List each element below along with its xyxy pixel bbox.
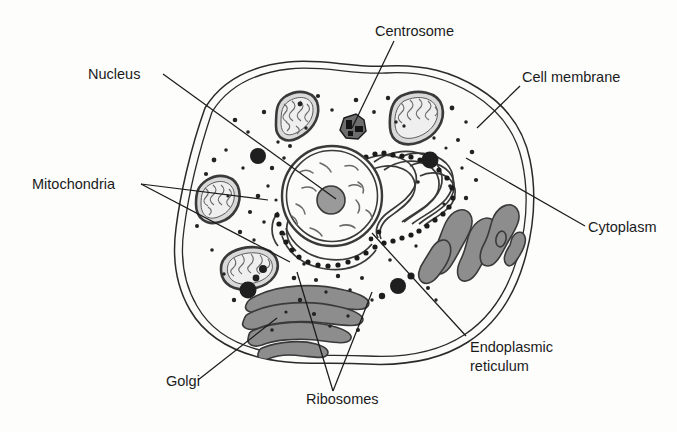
label-golgi: Golgi <box>166 373 200 389</box>
label-er-line2: reticulum <box>470 358 529 374</box>
label-nucleus: Nucleus <box>88 66 140 82</box>
label-ribosomes: Ribosomes <box>306 391 379 407</box>
label-cytoplasm: Cytoplasm <box>588 219 657 235</box>
nucleolus <box>317 186 345 214</box>
cell-diagram-svg: Nucleus Mitochondria Golgi Ribosomes Cen… <box>0 0 677 432</box>
cell-diagram-canvas: Nucleus Mitochondria Golgi Ribosomes Cen… <box>0 0 677 432</box>
label-centrosome: Centrosome <box>375 23 454 39</box>
label-er-line1: Endoplasmic <box>470 339 553 355</box>
label-mitochondria: Mitochondria <box>32 176 116 192</box>
label-cell-membrane: Cell membrane <box>522 69 620 85</box>
